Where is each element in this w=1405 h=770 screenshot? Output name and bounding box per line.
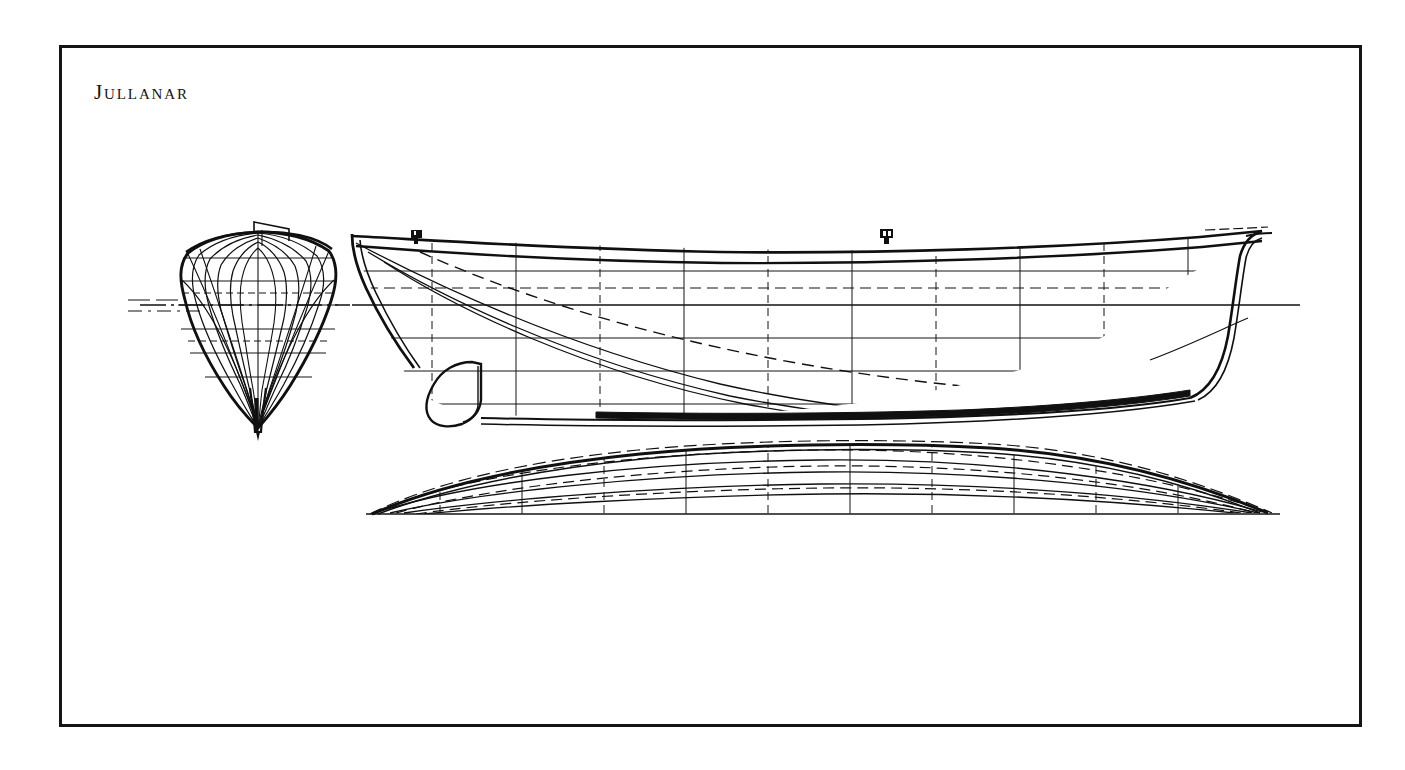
plate-border-frame — [59, 45, 1362, 727]
drawing-plate: Jullanar — [0, 0, 1405, 770]
page-title: Jullanar — [94, 82, 189, 103]
